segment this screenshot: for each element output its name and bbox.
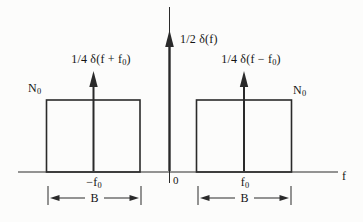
right-impulse-label: 1/4 δ(f − f0) [221, 53, 281, 65]
right-bandwidth-arrowhead-right-icon [280, 195, 290, 201]
right-impulse-arrowhead-icon [240, 71, 248, 87]
right-bandwidth-label: B [240, 192, 248, 204]
center-impulse-label: 1/2 δ(f) [180, 33, 218, 45]
left-bandwidth-arrowhead-left-icon [50, 195, 60, 201]
f0-tick-label: f0 [241, 176, 250, 188]
neg-f0-tick-label: −f0 [86, 176, 102, 188]
f-axis-label: f [342, 170, 346, 182]
left-bandwidth-label: B [90, 192, 98, 204]
psd-figure: 1/2 δ(f) 1/4 δ(f + f0) 1/4 δ(f − f0) N0 … [0, 0, 363, 222]
left-bandwidth-arrowhead-right-icon [130, 195, 140, 201]
left-level-label: N0 [28, 82, 41, 94]
center-impulse-arrowhead-icon [165, 30, 174, 47]
left-impulse-label: 1/4 δ(f + f0) [71, 53, 131, 65]
right-bandwidth-arrowhead-left-icon [200, 195, 210, 201]
right-level-label: N0 [293, 84, 306, 96]
origin-label: 0 [173, 175, 179, 186]
left-impulse-arrowhead-icon [89, 71, 97, 87]
